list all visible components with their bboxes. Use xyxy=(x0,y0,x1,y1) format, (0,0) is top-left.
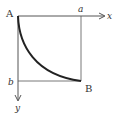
curve-diagram: A B x y a b xyxy=(0,0,119,115)
label-a-mark: a xyxy=(78,4,83,14)
curve-a-to-b xyxy=(18,16,81,81)
label-b-point: B xyxy=(85,83,92,94)
label-a-point: A xyxy=(5,8,14,19)
label-b-mark: b xyxy=(8,77,14,87)
label-y-axis: y xyxy=(14,103,21,113)
label-x-axis: x xyxy=(107,11,112,21)
